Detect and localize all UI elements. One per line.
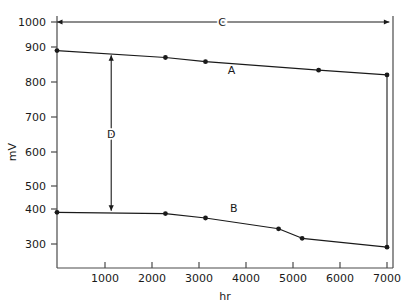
- annotation-arrowhead-d-top: [109, 55, 114, 61]
- series-label-b: B: [230, 202, 238, 215]
- data-point-b-2: [203, 216, 208, 221]
- annotation-labels: C D: [107, 16, 226, 141]
- y-ticklabel-300: 300: [25, 238, 46, 251]
- annotation-arrowhead-c-left: [57, 19, 63, 24]
- x-ticklabel-6000: 6000: [326, 272, 354, 285]
- y-ticklabel-600: 600: [25, 146, 46, 159]
- x-ticklabel-4000: 4000: [232, 272, 260, 285]
- x-axis-ticks: [105, 262, 387, 268]
- y-ticklabel-800: 800: [25, 76, 46, 89]
- data-point-b-3: [276, 226, 281, 231]
- x-axis-tick-labels: 1000 2000 3000 4000 5000 6000 7000: [91, 272, 401, 285]
- series-line-a: [57, 51, 387, 75]
- y-ticklabel-700: 700: [25, 111, 46, 124]
- y-ticklabel-400: 400: [25, 203, 46, 216]
- data-point-a-1: [163, 55, 168, 60]
- x-ticklabel-7000: 7000: [373, 272, 401, 285]
- y-axis-title: mV: [6, 142, 19, 161]
- annotation-label-c: C: [218, 16, 226, 29]
- annotation-arrowhead-d-bottom: [109, 205, 114, 211]
- annotation-layer: [57, 19, 389, 210]
- chart-figure: 1000 900 800 700 600 500 400 300 mV 1000…: [0, 0, 416, 308]
- y-axis-tick-labels: 1000 900 800 700 600 500 400 300: [18, 16, 46, 251]
- data-point-b-0: [55, 210, 60, 215]
- data-point-b-1: [163, 211, 168, 216]
- series-label-a: A: [228, 64, 236, 77]
- data-series-layer: [55, 48, 390, 249]
- y-ticklabel-500: 500: [25, 180, 46, 193]
- data-point-a-0: [55, 48, 60, 53]
- x-ticklabel-3000: 3000: [185, 272, 213, 285]
- annotation-label-d: D: [107, 128, 115, 141]
- x-ticklabel-5000: 5000: [279, 272, 307, 285]
- data-point-a-2: [203, 59, 208, 64]
- annotation-arrowhead-c-right: [384, 19, 390, 24]
- series-line-b: [57, 212, 387, 247]
- y-ticklabel-900: 900: [25, 41, 46, 54]
- x-ticklabel-1000: 1000: [91, 272, 119, 285]
- x-ticklabel-2000: 2000: [138, 272, 166, 285]
- data-point-a-3: [316, 68, 321, 73]
- x-axis-title: hr: [219, 290, 231, 303]
- chart-canvas: 1000 900 800 700 600 500 400 300 mV 1000…: [0, 0, 416, 308]
- data-point-b-4: [300, 236, 305, 241]
- y-ticklabel-1000: 1000: [18, 16, 46, 29]
